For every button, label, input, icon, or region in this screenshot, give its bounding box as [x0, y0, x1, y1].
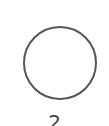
option-circle-button[interactable]: [23, 26, 97, 100]
option-container: 2: [0, 0, 109, 126]
option-label: 2: [0, 110, 109, 126]
